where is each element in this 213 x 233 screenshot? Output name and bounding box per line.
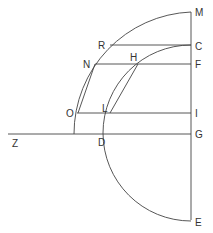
label-I: I bbox=[195, 108, 198, 119]
label-C: C bbox=[195, 41, 202, 52]
small-arc-CDE bbox=[103, 45, 191, 221]
label-R: R bbox=[98, 40, 105, 51]
label-M: M bbox=[195, 7, 203, 18]
label-H: H bbox=[130, 52, 137, 63]
label-Z: Z bbox=[12, 138, 18, 149]
label-D: D bbox=[98, 137, 105, 148]
label-O: O bbox=[66, 108, 74, 119]
label-L: L bbox=[102, 103, 108, 114]
chord-HL bbox=[110, 64, 138, 113]
label-E: E bbox=[195, 217, 202, 228]
geometry-diagram: M R C N H F O L I Z D G E bbox=[0, 0, 213, 233]
label-G: G bbox=[195, 129, 203, 140]
chord-NO bbox=[78, 64, 95, 113]
label-F: F bbox=[195, 59, 201, 70]
label-N: N bbox=[83, 59, 90, 70]
